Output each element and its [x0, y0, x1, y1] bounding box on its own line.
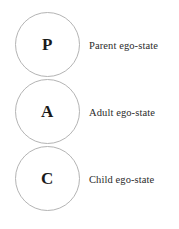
adult-ego-state-label: Adult ego-state — [89, 108, 155, 119]
adult-ego-state-circle: A — [15, 79, 80, 144]
parent-ego-state-label: Parent ego-state — [89, 41, 158, 52]
parent-ego-state-circle: P — [15, 12, 80, 77]
child-ego-state-circle: C — [15, 146, 80, 211]
parent-ego-state-letter: P — [42, 36, 53, 53]
ego-state-diagram: P A C Parent ego-state Adult ego-state C… — [0, 0, 179, 229]
child-ego-state-label: Child ego-state — [89, 175, 154, 186]
adult-ego-state-letter: A — [41, 103, 54, 120]
child-ego-state-letter: C — [41, 170, 54, 187]
